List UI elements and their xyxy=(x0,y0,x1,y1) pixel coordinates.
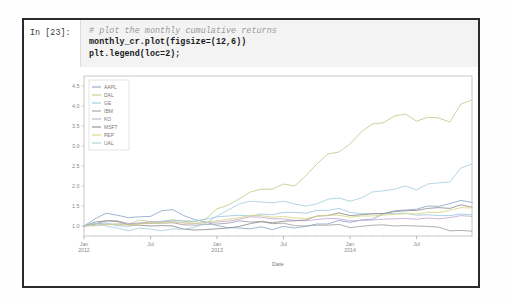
y-tick-label: 1.0 xyxy=(72,223,80,229)
legend-label-pep: PEP xyxy=(104,132,115,138)
x-tick-label: Jul xyxy=(280,241,287,247)
code-editor[interactable]: # plot the monthly cumulative returns mo… xyxy=(80,20,478,67)
code-line-comment: # plot the monthly cumulative returns xyxy=(89,26,472,37)
x-tick-label-year: 2014 xyxy=(344,247,356,253)
y-tick-label: 3.0 xyxy=(72,143,80,149)
cell-input-row: In [23]: # plot the monthly cumulative r… xyxy=(24,20,478,68)
y-axis-ticks: 1.01.52.02.53.03.54.04.5 xyxy=(72,83,84,229)
line-chart: 1.01.52.02.53.03.54.04.5 Jan2012JulJan20… xyxy=(24,68,478,286)
legend-label-ual: UAL xyxy=(104,140,114,146)
code-line-legend: plt.legend(loc=2); xyxy=(89,49,472,60)
x-tick-label-year: 2012 xyxy=(78,247,90,253)
x-axis-title: Date xyxy=(272,261,284,267)
legend-label-ibm: IBM xyxy=(104,108,113,114)
x-tick-label: Jul xyxy=(413,241,420,247)
legend-label-dal: DAL xyxy=(104,92,114,98)
y-tick-label: 4.0 xyxy=(72,103,80,109)
y-tick-label: 3.5 xyxy=(72,123,80,129)
x-tick-label: Jul xyxy=(147,241,154,247)
input-prompt-label: In [23]: xyxy=(24,20,80,38)
plot-area-border xyxy=(84,76,472,236)
notebook-cell: In [23]: # plot the monthly cumulative r… xyxy=(22,18,480,288)
legend-label-aapl: AAPL xyxy=(104,84,117,90)
legend-label-ge: GE xyxy=(104,100,112,106)
y-tick-label: 1.5 xyxy=(72,203,80,209)
y-tick-label: 4.5 xyxy=(72,83,80,89)
cell-output-figure: 1.01.52.02.53.03.54.04.5 Jan2012JulJan20… xyxy=(24,68,478,286)
screenshot-root: In [23]: # plot the monthly cumulative r… xyxy=(0,0,508,303)
chart-legend: AAPLDALGEIBMKOMSFTPEPUAL xyxy=(89,80,129,150)
legend-label-msft: MSFT xyxy=(104,124,118,130)
y-tick-label: 2.5 xyxy=(72,163,80,169)
y-tick-label: 2.0 xyxy=(72,183,80,189)
legend-label-ko: KO xyxy=(104,116,111,122)
code-line-plot: monthly_cr.plot(figsize=(12,6)) xyxy=(89,37,472,48)
x-axis-ticks: Jan2012JulJan2013JulJan2014Jul xyxy=(78,236,472,253)
x-tick-label-year: 2013 xyxy=(211,247,223,253)
